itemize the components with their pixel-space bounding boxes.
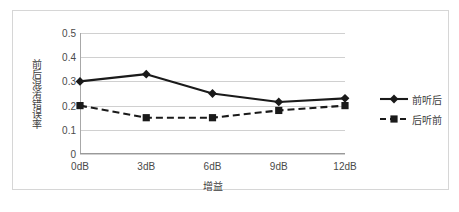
legend-item-后听前: 后听前	[379, 109, 457, 129]
y-tick-label: 0.2	[48, 100, 76, 111]
chart-frame: 前后混淆错误率 0.50.40.30.20.10 0dB3dB6dB9dB12d…	[12, 10, 449, 190]
y-axis-tick-labels: 0.50.40.30.20.10	[46, 33, 76, 154]
legend-swatch	[379, 112, 409, 126]
x-tick-label: 0dB	[71, 161, 89, 172]
y-tick-label: 0.1	[48, 124, 76, 135]
y-tick-label: 0.5	[48, 28, 76, 39]
data-point-marker	[209, 114, 216, 121]
data-point-marker	[76, 77, 85, 86]
gridline	[80, 154, 345, 155]
x-tick-label: 12dB	[333, 161, 356, 172]
figure-container: 前后混淆错误率 0.50.40.30.20.10 0dB3dB6dB9dB12d…	[0, 0, 459, 212]
legend-label: 后听前	[412, 112, 442, 127]
legend-item-前听后: 前听后	[379, 89, 457, 109]
x-axis-tick-labels: 0dB3dB6dB9dB12dB	[80, 161, 345, 175]
data-point-marker	[341, 94, 350, 103]
series-layer	[80, 33, 345, 154]
series-后听前	[76, 102, 348, 121]
data-point-marker	[76, 102, 83, 109]
y-axis-title: 前后混淆错误率	[27, 33, 43, 154]
y-tick-label: 0.3	[48, 76, 76, 87]
series-前听后	[76, 70, 350, 107]
x-tick-label: 6dB	[204, 161, 222, 172]
legend-label: 前听后	[412, 92, 442, 107]
data-point-marker	[341, 102, 348, 109]
data-point-marker	[142, 70, 151, 79]
y-tick-label: 0	[48, 149, 76, 160]
data-point-marker	[275, 107, 282, 114]
data-point-marker	[208, 89, 217, 98]
plot-area	[80, 33, 345, 154]
y-tick-label: 0.4	[48, 52, 76, 63]
data-point-marker	[143, 114, 150, 121]
x-tick-label: 9dB	[270, 161, 288, 172]
x-axis-title: 增益	[80, 178, 345, 193]
legend-swatch	[379, 92, 409, 106]
legend: 前听后后听前	[379, 89, 457, 129]
x-tick-label: 3dB	[137, 161, 155, 172]
data-point-marker	[274, 98, 283, 107]
